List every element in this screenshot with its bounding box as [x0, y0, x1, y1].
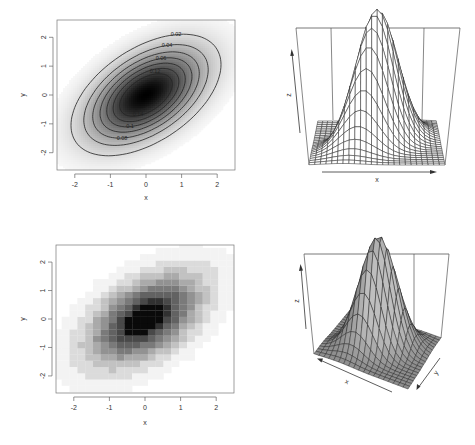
surface-facet — [437, 154, 443, 156]
heatmap-cell — [195, 267, 203, 273]
heatmap-cell — [124, 298, 132, 304]
heatmap-cell — [171, 329, 179, 335]
heatmap-cell — [56, 342, 62, 348]
heatmap-cell — [164, 310, 172, 316]
surface-facet — [354, 160, 360, 164]
heatmap-cell — [179, 292, 187, 298]
heatmap-cell — [109, 298, 117, 304]
heatmap-cell — [93, 336, 101, 342]
heatmap-cell — [85, 304, 93, 310]
surface-facet — [377, 159, 383, 162]
heatmap-cell — [132, 342, 140, 348]
surface-facet — [410, 159, 416, 161]
heatmap-cell — [77, 336, 85, 342]
surface-facet — [437, 152, 443, 154]
heatmap-cell — [179, 273, 187, 279]
surface-facet — [383, 163, 389, 165]
contour-level-label: 0.12 — [150, 68, 161, 74]
y-tick-label: -1 — [40, 344, 47, 350]
heatmap-cell — [156, 279, 164, 285]
heatmap-cell — [195, 260, 203, 266]
heatmap-cell — [179, 317, 187, 323]
heatmap-cell — [77, 310, 85, 316]
heatmap-cell — [70, 310, 78, 316]
surface-facet — [422, 160, 428, 162]
heatmap-cell — [195, 304, 203, 310]
heatmap-cell — [70, 329, 78, 335]
heatmap-cell — [156, 304, 164, 310]
heatmap-cell — [203, 329, 211, 335]
surface-facet — [349, 139, 355, 149]
heatmap-cell — [85, 367, 93, 373]
surface-facet — [400, 163, 406, 165]
surface-facet — [416, 160, 422, 162]
shaded-surface-panel: x y z — [293, 237, 449, 392]
surface-facet — [438, 158, 444, 160]
heatmap-cell — [77, 304, 85, 310]
heatmap-cell — [148, 323, 156, 329]
heatmap-cell — [195, 245, 203, 248]
heatmap-cell — [85, 354, 93, 360]
surface-facet — [349, 149, 355, 156]
heatmap-cell — [132, 354, 140, 360]
heatmap-cell — [93, 373, 101, 379]
heatmap-cell — [132, 367, 140, 373]
heatmap-cell — [140, 323, 148, 329]
surface-facet — [320, 161, 326, 164]
surface-facet — [309, 162, 315, 164]
heatmap-cell — [179, 254, 187, 260]
heatmap-cell — [140, 329, 148, 335]
heatmap-cell — [85, 317, 93, 323]
heatmap-cell — [179, 354, 187, 360]
heatmap-cell — [156, 267, 164, 273]
z-axis-label: z — [293, 299, 300, 303]
heatmap-cell — [156, 367, 164, 373]
surface-facet — [316, 127, 321, 129]
surface-facet — [399, 161, 405, 163]
heatmap-cell — [124, 267, 132, 273]
surface-facet — [405, 163, 411, 165]
heatmap-cell — [187, 279, 195, 285]
heatmap-cell — [101, 329, 109, 335]
contour-level-label: 0.1 — [126, 123, 134, 129]
heatmap-cell — [70, 342, 78, 348]
heatmap-cell — [62, 342, 70, 348]
surface-facet — [427, 158, 433, 160]
heatmap-cell — [101, 323, 109, 329]
heatmap-cell — [140, 379, 148, 385]
heatmap-cell — [140, 298, 148, 304]
heatmap-cell — [164, 342, 172, 348]
surface-facet — [366, 161, 372, 164]
heatmap-cell — [62, 354, 70, 360]
heatmap-cell — [85, 373, 93, 379]
surface-facet — [349, 155, 355, 160]
heatmap-cell — [179, 298, 187, 304]
heatmap-cell — [187, 273, 195, 279]
heatmap-cell — [101, 361, 109, 367]
heatmap-cell — [226, 285, 234, 291]
heatmap-cell — [171, 254, 179, 260]
heatmap-cell — [203, 267, 211, 273]
heatmap-cell — [171, 260, 179, 266]
heatmap-cell — [124, 336, 132, 342]
heatmap-cell — [117, 304, 125, 310]
surface-facet — [349, 127, 355, 140]
heatmap-cell — [101, 354, 109, 360]
heatmap-cell — [85, 361, 93, 367]
y-tick-label: -1 — [41, 121, 48, 127]
heatmap-cell — [156, 317, 164, 323]
heatmap-cell — [77, 386, 85, 392]
heatmap-cell — [203, 273, 211, 279]
heatmap-cell — [148, 254, 156, 260]
heatmap-cell — [179, 304, 187, 310]
heatmap-cell — [132, 379, 140, 385]
heatmap-cell — [140, 267, 148, 273]
heatmap-cell — [70, 386, 78, 392]
heatmap-cell — [93, 317, 101, 323]
heatmap-cell — [156, 336, 164, 342]
x-axis-arrow — [322, 170, 437, 174]
heatmap-cell — [211, 323, 219, 329]
heatmap-cell — [93, 304, 101, 310]
heatmap-cell — [156, 323, 164, 329]
heatmap-cell — [156, 298, 164, 304]
